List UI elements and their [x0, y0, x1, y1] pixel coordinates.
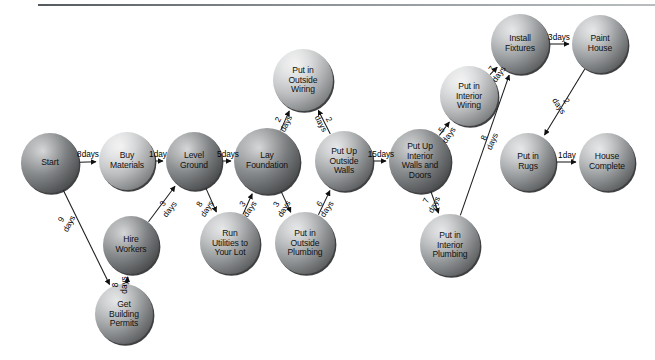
edge-outside_plumbing-to-outside_walls	[318, 191, 329, 215]
edge-lay_foundation-to-outside_plumbing	[281, 191, 291, 212]
node-install_fixtures[interactable]	[491, 14, 550, 76]
node-sheen	[491, 14, 549, 74]
node-start[interactable]	[21, 133, 80, 195]
edge-hire_workers-to-level_ground	[148, 186, 175, 221]
node-sheen	[200, 212, 260, 274]
node-hire_workers[interactable]	[103, 216, 160, 276]
edge-outside_walls-to-outside_wiring	[318, 110, 330, 134]
node-lay_foundation[interactable]	[234, 128, 301, 196]
node-get_permits[interactable]	[95, 284, 154, 346]
node-sheen	[440, 66, 498, 126]
node-outside_walls[interactable]	[315, 131, 374, 193]
edge-interior_walls-to-interior_plumbing	[431, 192, 439, 214]
diagram-canvas: StartBuy MaterialsLevel GroundLay Founda…	[0, 0, 655, 360]
node-sheen	[21, 133, 79, 193]
edge-interior_wiring-to-install_fixtures	[490, 67, 497, 74]
node-run_utilities[interactable]	[200, 212, 261, 276]
node-interior_walls[interactable]	[389, 129, 452, 195]
edge-interior_walls-to-interior_wiring	[439, 122, 449, 135]
graph-svg	[0, 0, 655, 360]
node-sheen	[166, 132, 222, 190]
node-outside_wiring[interactable]	[273, 49, 334, 113]
edge-run_utilities-to-lay_foundation	[243, 194, 252, 215]
edge-get_permits-to-hire_workers	[127, 277, 128, 284]
edge-paint_house-to-put_in_rugs	[545, 69, 585, 135]
edge-start-to-get_permits	[63, 190, 109, 284]
node-sheen	[103, 216, 159, 274]
node-house_complete[interactable]	[579, 133, 636, 193]
node-sheen	[572, 15, 628, 73]
node-sheen	[273, 49, 333, 111]
node-put_in_rugs[interactable]	[500, 133, 557, 193]
node-sheen	[315, 131, 373, 191]
node-interior_wiring[interactable]	[440, 66, 499, 128]
node-level_ground[interactable]	[166, 132, 223, 192]
node-sheen	[99, 132, 155, 190]
edge-level_ground-to-run_utilities	[206, 188, 217, 212]
node-sheen	[234, 128, 300, 194]
node-buy_materials[interactable]	[99, 132, 156, 192]
node-sheen	[275, 212, 335, 274]
node-interior_plumbing[interactable]	[420, 214, 481, 278]
node-sheen	[389, 129, 451, 193]
node-sheen	[420, 214, 480, 276]
node-sheen	[500, 133, 556, 191]
node-sheen	[95, 284, 153, 344]
nodes-layer	[21, 14, 636, 346]
node-sheen	[579, 133, 635, 191]
node-paint_house[interactable]	[572, 15, 629, 75]
edge-lay_foundation-to-outside_wiring	[281, 111, 290, 130]
node-outside_plumbing[interactable]	[275, 212, 336, 276]
